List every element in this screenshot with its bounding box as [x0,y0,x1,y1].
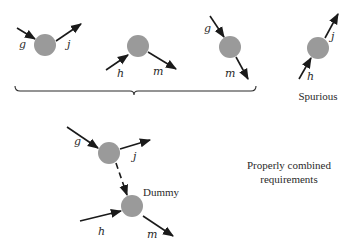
label-h: h [307,70,314,83]
dummy-arrow [116,163,127,195]
label-g: g [204,22,211,35]
activity-node [127,35,149,57]
bottom-activity-node [121,195,143,217]
label-g: g [74,135,81,148]
label-h: h [117,67,124,80]
activity-node [219,36,241,58]
label-g: g [19,38,26,51]
arrow-j-out [120,140,150,149]
arrow-m-out [236,57,248,79]
combined-requirements: g j h m Dummy Properly combined requirem… [67,127,332,241]
activity-node [34,34,56,56]
label-h: h [98,225,105,238]
activity-node [307,37,329,59]
label-m: m [147,228,157,241]
dummy-label: Dummy [143,186,180,198]
top-activity-node [98,142,120,164]
requirement-g-m: g m [204,16,248,80]
arrow-h-in [80,211,121,221]
grouping-brace [15,86,256,95]
arrow-g-in [210,16,224,37]
label-j: j [64,38,71,51]
requirement-h-m: h m [106,35,176,80]
label-m: m [225,67,235,80]
arrow-g-in [67,127,98,148]
label-m: m [153,65,163,78]
combined-caption-line1: Properly combined [247,159,332,171]
requirement-g-j: g j [17,24,81,56]
spurious-caption: Spurious [298,90,337,102]
network-diagram: g j h m g m h j Spurious g j [0,0,350,248]
spurious-h-j: h j Spurious [298,14,338,102]
label-j: j [130,150,137,163]
combined-caption-line2: requirements [260,173,317,185]
